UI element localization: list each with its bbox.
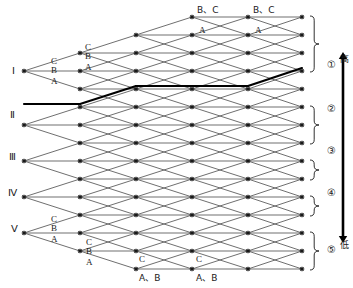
- group-braces: [310, 16, 319, 270]
- branch-label-i2-A: A: [85, 63, 92, 72]
- trellis-node: [78, 69, 83, 74]
- trellis-node: [190, 69, 195, 74]
- trellis-node: [190, 159, 195, 164]
- trellis-node: [78, 231, 83, 236]
- trellis-node: [190, 177, 195, 182]
- trellis-node: [134, 69, 139, 74]
- group-brace: [310, 232, 319, 270]
- trellis-node: [134, 105, 139, 110]
- trellis-node: [78, 141, 83, 146]
- trellis-node: [22, 159, 27, 164]
- trellis-node: [134, 213, 139, 218]
- state-label-5: Ⅴ: [11, 224, 18, 233]
- axis-high-label: 高: [340, 55, 349, 64]
- trellis-node: [300, 87, 305, 92]
- trellis-node: [300, 105, 305, 110]
- trellis-canvas: [0, 0, 353, 288]
- group-marker-5: ⑤: [327, 245, 336, 254]
- branch-label-v-A: A: [51, 235, 58, 244]
- trellis-node: [246, 177, 251, 182]
- trellis-node: [22, 123, 27, 128]
- axis-low-label: 低: [340, 241, 349, 250]
- trellis-node: [246, 105, 251, 110]
- trellis-node: [134, 231, 139, 236]
- trellis-node: [78, 105, 83, 110]
- trellis-edges: [24, 17, 302, 269]
- trellis-node: [78, 213, 83, 218]
- trellis-node: [190, 51, 195, 56]
- trellis-node: [300, 267, 305, 272]
- state-label-4: Ⅳ: [8, 188, 17, 197]
- trellis-node: [190, 105, 195, 110]
- trellis-node: [246, 15, 251, 20]
- trellis-node: [246, 51, 251, 56]
- trellis-node: [300, 33, 305, 38]
- trellis-node: [78, 249, 83, 254]
- trellis-node: [300, 195, 305, 200]
- trellis-node: [134, 87, 139, 92]
- state-label-2: Ⅱ: [10, 110, 15, 119]
- trellis-node: [78, 123, 83, 128]
- trellis-node: [190, 15, 195, 20]
- trellis-node: [190, 141, 195, 146]
- trellis-node: [22, 231, 27, 236]
- bottom-edge-label-2: A、B: [196, 274, 217, 283]
- trellis-node: [246, 213, 251, 218]
- branch-label-v2-A: A: [86, 258, 93, 267]
- trellis-node: [246, 33, 251, 38]
- trellis-node: [246, 231, 251, 236]
- lower-edge-label-2: C: [196, 255, 202, 264]
- trellis-node: [246, 87, 251, 92]
- trellis-node: [134, 51, 139, 56]
- trellis-node: [78, 195, 83, 200]
- trellis-node: [134, 177, 139, 182]
- group-brace: [310, 106, 319, 144]
- trellis-node: [190, 267, 195, 272]
- branch-label-i-A: A: [51, 77, 58, 86]
- group-marker-1: ①: [327, 60, 336, 69]
- second-edge-label-1: A: [199, 26, 206, 35]
- trellis-node: [78, 87, 83, 92]
- trellis-node: [300, 69, 305, 74]
- branch-label-v2-B: B: [86, 247, 92, 256]
- trellis-node: [134, 33, 139, 38]
- state-label-3: Ⅲ: [9, 152, 16, 161]
- trellis-node: [190, 87, 195, 92]
- top-edge-label-2: B、C: [253, 6, 274, 15]
- top-edge-label-1: B、C: [197, 6, 218, 15]
- trellis-node: [190, 231, 195, 236]
- trellis-node: [190, 33, 195, 38]
- group-marker-4: ④: [327, 188, 336, 197]
- state-label-1: Ⅰ: [12, 66, 15, 75]
- branch-label-i-B: B: [51, 66, 57, 75]
- branch-label-i2-B: B: [85, 52, 91, 61]
- trellis-node: [246, 267, 251, 272]
- trellis-node: [246, 249, 251, 254]
- trellis-node: [246, 141, 251, 146]
- trellis-node: [300, 159, 305, 164]
- trellis-node: [300, 213, 305, 218]
- trellis-node: [300, 231, 305, 236]
- group-marker-3: ③: [327, 146, 336, 155]
- lower-edge-label-1: C: [139, 255, 145, 264]
- trellis-node: [300, 141, 305, 146]
- group-brace: [310, 160, 319, 180]
- trellis-node: [246, 69, 251, 74]
- trellis-node: [134, 141, 139, 146]
- trellis-node: [134, 267, 139, 272]
- trellis-node: [134, 249, 139, 254]
- trellis-node: [300, 249, 305, 254]
- trellis-node: [246, 195, 251, 200]
- trellis-node: [300, 177, 305, 182]
- trellis-node: [22, 69, 27, 74]
- group-marker-2: ②: [327, 104, 336, 113]
- group-brace: [310, 16, 319, 72]
- trellis-node: [190, 123, 195, 128]
- second-edge-label-2: A: [255, 26, 262, 35]
- trellis-node: [300, 123, 305, 128]
- trellis-node: [190, 213, 195, 218]
- trellis-node: [134, 195, 139, 200]
- trellis-node: [300, 15, 305, 20]
- trellis-node: [78, 159, 83, 164]
- group-brace: [310, 196, 319, 216]
